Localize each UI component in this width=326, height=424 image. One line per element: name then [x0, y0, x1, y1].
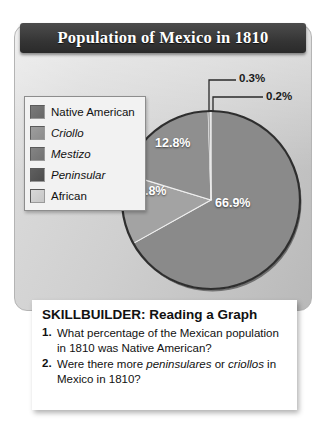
page-title: Population of Mexico in 1810	[58, 28, 269, 48]
question-number: 2.	[42, 357, 57, 386]
legend-item-african: African	[30, 185, 140, 206]
legend-item-label: African	[51, 190, 87, 202]
legend-swatch-icon	[30, 105, 45, 119]
legend-item-label: Peninsular	[51, 169, 105, 181]
skillbuilder-box: SKILLBUILDER: Reading a Graph 1.What per…	[32, 300, 297, 410]
pie-slice-label-criollo: 12.8%	[155, 136, 190, 150]
legend-item-native-american: Native American	[30, 101, 140, 122]
skillbuilder-question: 2.Were there more peninsulares or crioll…	[42, 357, 288, 386]
legend-item-label: Criollo	[51, 127, 84, 139]
question-text: What percentage of the Mexican populatio…	[57, 326, 288, 355]
chart-title-bar: Population of Mexico in 1810	[20, 23, 306, 53]
pie-slice-label-peninsular: 0.3%	[239, 72, 265, 84]
legend-item-mestizo: Mestizo	[30, 143, 140, 164]
legend-item-peninsular: Peninsular	[30, 164, 140, 185]
pie-slice-label-african: 0.2%	[266, 90, 292, 102]
legend-swatch-icon	[30, 126, 45, 140]
skillbuilder-heading: SKILLBUILDER: Reading a Graph	[42, 307, 288, 322]
legend-item-criollo: Criollo	[30, 122, 140, 143]
chart-legend: Native AmericanCriolloMestizoPeninsularA…	[24, 96, 146, 211]
legend-swatch-icon	[30, 147, 45, 161]
skillbuilder-question: 1.What percentage of the Mexican populat…	[42, 326, 288, 355]
legend-item-label: Mestizo	[51, 148, 91, 160]
legend-swatch-icon	[30, 189, 45, 203]
legend-item-label: Native American	[51, 106, 135, 118]
pie-chart	[119, 108, 303, 292]
pie-chart-svg	[119, 108, 303, 292]
question-text: Were there more peninsulares or criollos…	[57, 357, 288, 386]
legend-swatch-icon	[30, 168, 45, 182]
skillbuilder-questions: 1.What percentage of the Mexican populat…	[42, 326, 288, 386]
pie-slice-label-native-american: 66.9%	[215, 196, 250, 210]
question-number: 1.	[42, 326, 57, 355]
